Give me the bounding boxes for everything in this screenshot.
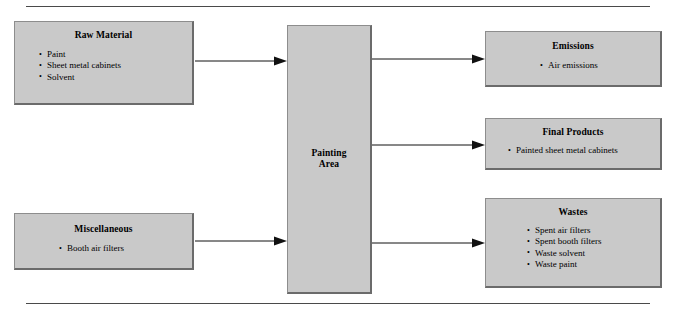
list-item: Spent air filters: [527, 225, 660, 236]
node-painting-area-title-line2: Area: [319, 159, 339, 169]
arrow-painting-area-to-final-products: [372, 139, 487, 151]
list-item: Waste solvent: [527, 248, 660, 259]
arrow-raw-material-to-painting-area: [194, 55, 289, 67]
process-flow-diagram: Raw Material Paint Sheet metal cabinets …: [0, 0, 676, 315]
node-emissions-items: Air emissions: [540, 60, 660, 71]
list-item: Paint: [39, 49, 192, 60]
node-miscellaneous-title: Miscellaneous: [15, 224, 192, 235]
node-final-products-title: Final Products: [486, 127, 660, 138]
node-miscellaneous-items: Booth air filters: [59, 243, 192, 254]
list-item: Air emissions: [540, 60, 660, 71]
node-raw-material: Raw Material Paint Sheet metal cabinets …: [14, 21, 194, 105]
node-final-products: Final Products Painted sheet metal cabin…: [485, 118, 662, 170]
node-emissions-title: Emissions: [486, 41, 660, 52]
node-raw-material-items: Paint Sheet metal cabinets Solvent: [39, 49, 192, 83]
node-wastes: Wastes Spent air filters Spent booth fil…: [485, 198, 662, 288]
node-painting-area-title-line1: Painting: [311, 148, 346, 158]
node-painting-area-title: Painting Area: [311, 148, 346, 170]
node-wastes-items: Spent air filters Spent booth filters Wa…: [527, 225, 660, 271]
list-item: Painted sheet metal cabinets: [508, 145, 660, 156]
list-item: Solvent: [39, 72, 192, 83]
node-emissions: Emissions Air emissions: [485, 31, 662, 87]
list-item: Sheet metal cabinets: [39, 60, 192, 71]
arrow-painting-area-to-emissions: [372, 53, 487, 65]
node-miscellaneous: Miscellaneous Booth air filters: [14, 213, 194, 270]
arrow-miscellaneous-to-painting-area: [194, 235, 289, 247]
node-painting-area: Painting Area: [287, 25, 372, 294]
node-final-products-items: Painted sheet metal cabinets: [508, 145, 660, 156]
top-horizontal-rule: [26, 6, 650, 7]
node-raw-material-title: Raw Material: [15, 30, 192, 41]
list-item: Booth air filters: [59, 243, 192, 254]
bottom-horizontal-rule: [26, 303, 650, 304]
list-item: Spent booth filters: [527, 236, 660, 247]
arrow-painting-area-to-wastes: [372, 237, 487, 249]
node-wastes-title: Wastes: [486, 207, 660, 218]
list-item: Waste paint: [527, 259, 660, 270]
